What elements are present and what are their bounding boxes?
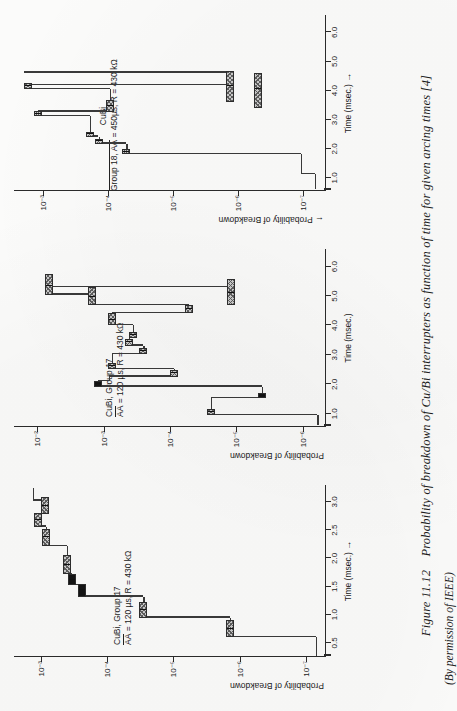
uncertainty-bar [63,555,71,574]
uncertainty-bar [185,306,193,314]
step-riser [98,385,261,386]
step-riser [28,84,231,85]
step-riser [126,153,300,154]
uncertainty-bar [170,370,178,376]
chart-panel-right: CuBi Group 18, AA = 450µs, R = 430 kΩ Ti… [0,7,390,237]
uncertainty-bar [106,100,114,112]
origin-arrow-icon [324,188,331,190]
y-tick-label: 10⁻⁶ [234,195,243,211]
uncertainty-bar [42,529,50,546]
uncertainty-bar [95,139,103,144]
uncertainty-bar [45,274,53,295]
bar-median-mark [89,296,95,297]
y-tick-label: 10⁻⁵ [169,195,178,211]
bar-median-mark [96,140,102,141]
uncertainty-bar [226,71,234,102]
panel-left-y-axis-title: Probability of Breakdown [230,681,324,691]
step-riser [109,375,174,376]
uncertainty-bar [88,287,96,305]
bar-median-mark [107,105,113,106]
x-tick-label: 1.5 [330,581,339,592]
uncertainty-bar [24,83,32,89]
bar-hatch-fill [42,498,48,513]
uncertainty-bar [41,497,49,514]
bar-median-mark [109,319,115,320]
bar-median-mark [46,285,52,286]
y-tick-label: 10⁻³ [39,195,48,211]
bar-median-mark [69,579,75,580]
step-riser [49,293,91,294]
panel-left-x-axis-title: Time (msec.) → [343,485,353,657]
x-tick-label: 4.0 [330,320,339,331]
y-tick-label: 10⁻⁴ [166,431,175,447]
figure-credit: (By permission of IEEE) [443,572,455,685]
x-tick-label: 5.0 [330,56,339,67]
bar-median-mark [64,564,70,565]
panel-right-y-axis-title: ← Probability of Breakdown [219,215,324,225]
uncertainty-bar [68,574,76,585]
uncertainty-bar [108,363,116,369]
panel-middle-y-axis-title: Probability of Breakdown [230,451,324,461]
bar-median-mark [130,334,136,335]
panel-left-plot-area: Time (msec.) → Probability of Breakdown … [14,485,326,657]
uncertainty-bar [94,381,102,386]
figure-caption-text: Probability of breakdown of Cu/Bi interr… [419,75,433,557]
y-tick-label: 10⁻⁴ [104,195,113,211]
step-segment [109,377,110,382]
uncertainty-bar [34,111,42,116]
x-tick-label: 2.5 [330,525,339,536]
bar-median-mark [259,395,265,396]
step-riser [92,304,189,305]
panel-right-plot-area: Time (msec.) → ← Probability of Breakdow… [14,15,326,191]
step-riser [211,397,261,398]
bar-median-mark [186,308,192,309]
step-riser [143,616,229,617]
panel-right-x-axis-title: Time (msec.) → [343,15,353,191]
x-axis-arrow-icon: → [343,73,353,82]
bar-median-mark [87,133,93,134]
step-riser [28,88,110,89]
y-tick-label: 10⁻⁵ [169,661,178,677]
bar-median-mark [140,350,146,351]
uncertainty-bar [139,348,147,354]
step-riser [112,312,189,313]
bar-median-mark [227,85,233,86]
panel-middle-x-axis-title: Time (msec.) [343,249,353,427]
bar-median-mark [25,85,31,86]
y-tick-label: 10⁻⁴ [102,661,111,677]
uncertainty-bar [254,73,262,108]
step-segment [316,637,317,656]
y-tick-label: 10⁻⁶ [298,431,307,447]
step-riser [24,71,231,72]
x-tick-label: 1.0 [330,609,339,620]
bar-hatch-fill [140,603,146,617]
bar-median-mark [79,589,85,590]
x-tick-label: 5.0 [330,291,339,302]
step-riser [211,414,317,415]
uncertainty-bar [129,332,137,338]
bar-solid-fill [79,585,85,595]
uncertainty-bar [258,393,266,399]
uncertainty-bar [125,339,133,345]
y-tick-label: 10⁻³ [36,661,45,677]
bar-median-mark [208,411,214,412]
y-tick-label: 10⁻⁶ [235,661,244,677]
x-tick-label: 3.0 [330,496,339,507]
uncertainty-bar [86,132,94,137]
bar-median-mark [35,113,41,114]
bar-median-mark [42,505,48,506]
y-tick-label: 10⁻⁷ [302,661,311,677]
x-tick-label: 0.5 [330,637,339,648]
x-tick-label: 3.0 [330,114,339,125]
x-tick-label: 3.0 [330,349,339,360]
bar-hatch-fill [43,530,49,545]
x-tick-label: 1.0 [330,408,339,419]
x-tick-label: 2.0 [330,553,339,564]
panel-right-y-axis [14,190,326,191]
y-tick-label: 10⁻⁷ [299,195,308,211]
x-tick-label: 2.0 [330,143,339,154]
y-tick-label: 10⁻⁵ [232,431,241,447]
uncertainty-bar [122,149,130,154]
y-tick-label: 10⁻² [33,431,42,447]
bar-median-mark [227,628,233,629]
